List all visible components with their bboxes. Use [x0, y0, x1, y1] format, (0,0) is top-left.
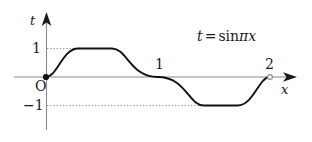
x-tick-label-2: 2 [265, 57, 274, 71]
y-tick-label-1: 1 [32, 41, 41, 55]
equation-operator: = [203, 28, 219, 44]
end-point-marker [268, 75, 273, 80]
origin-label: O [35, 79, 46, 93]
sine-function-figure: t x O 1 −1 1 2 t=sinπx [0, 0, 312, 142]
x-tick-label-1: 1 [155, 57, 164, 71]
x-axis-label: x [281, 83, 288, 96]
y-tick-label-minus-1: −1 [23, 98, 44, 112]
y-axis-label: t [30, 14, 35, 27]
equation-variable: x [248, 28, 256, 44]
equation-annotation: t=sinπx [197, 28, 256, 44]
equation-lhs: t [197, 28, 203, 44]
equation-pi-symbol: π [239, 28, 248, 44]
equation-function: sin [218, 28, 239, 44]
